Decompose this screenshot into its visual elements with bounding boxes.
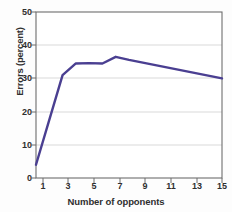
x-tick-marks [43,178,222,183]
y-tick-marks [31,12,36,178]
chart-figure: Errors (percent) 50 40 30 20 10 0 1 3 5 … [0,0,232,212]
plot-background [36,12,222,178]
plot-area [0,0,232,212]
